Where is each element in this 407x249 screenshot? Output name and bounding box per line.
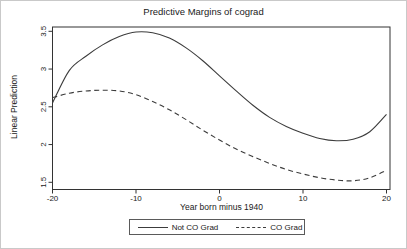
y-tick-label: 3 bbox=[39, 66, 48, 71]
y-tick-label: 2 bbox=[39, 142, 48, 147]
y-tick-label: 3.5 bbox=[39, 25, 48, 37]
plot-box bbox=[53, 27, 391, 190]
legend-item-co-grad: CO Grad bbox=[230, 223, 302, 232]
stata-graph: Predictive Margins of cograd Linear Pred… bbox=[0, 0, 407, 249]
x-axis-label: Year born minus 1940 bbox=[53, 202, 390, 212]
legend-label-co-grad: CO Grad bbox=[270, 223, 302, 232]
legend: Not CO Grad CO Grad bbox=[129, 219, 305, 235]
legend-item-not-co-grad: Not CO Grad bbox=[132, 223, 219, 232]
legend-solid-line-icon bbox=[138, 227, 168, 228]
series-line-co-grad bbox=[53, 90, 387, 181]
series-line-not-co-grad bbox=[53, 32, 387, 141]
y-tick-label: 2.5 bbox=[39, 101, 48, 113]
legend-dashed-line-icon bbox=[236, 227, 266, 228]
legend-label-not-co-grad: Not CO Grad bbox=[172, 223, 219, 232]
y-tick-label: 1.5 bbox=[39, 176, 48, 188]
